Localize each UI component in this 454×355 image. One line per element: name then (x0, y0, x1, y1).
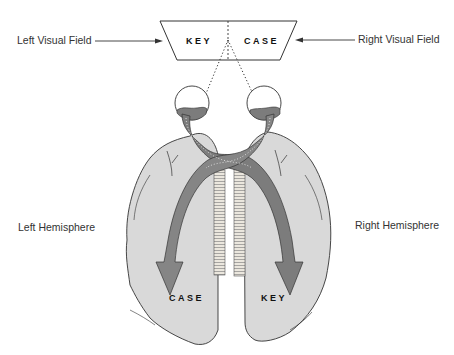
left-hemisphere-word: CASE (169, 293, 204, 303)
left-hemisphere-label: Left Hemisphere (18, 221, 95, 233)
right-field-arrow (295, 38, 355, 43)
split-brain-diagram (0, 0, 454, 355)
left-field-arrow (95, 39, 163, 44)
right-hemisphere-word: KEY (261, 293, 287, 303)
screen-word-right: CASE (244, 36, 279, 46)
corpus-callosum-left (214, 170, 225, 275)
right-eye (247, 86, 281, 120)
right-hemisphere-label: Right Hemisphere (355, 219, 439, 231)
left-eye (175, 86, 209, 120)
screen-word-left: KEY (186, 36, 212, 46)
left-visual-field-label: Left Visual Field (17, 34, 92, 46)
right-visual-field-label: Right Visual Field (358, 33, 440, 45)
corpus-callosum-right (234, 168, 245, 276)
